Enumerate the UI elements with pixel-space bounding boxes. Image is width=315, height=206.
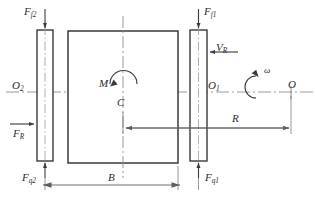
left-brake-pad (37, 26, 53, 166)
label-velocity-vr: VR (216, 42, 227, 55)
label-force-fr: FR (13, 128, 24, 141)
label-center-c: C (117, 97, 124, 108)
label-force-ff2: Ff2 (24, 6, 36, 19)
label-angular-velocity: ω (264, 66, 270, 75)
diagram-svg (0, 0, 315, 206)
label-origin-o1: O1 (208, 80, 220, 93)
label-force-ff1: Ff1 (204, 6, 216, 19)
label-moment-m: M (99, 78, 108, 89)
label-force-fq2: Fq2 (22, 172, 36, 185)
right-brake-pad (190, 26, 207, 166)
label-width-b: B (108, 172, 115, 183)
label-radius-r: R (232, 113, 239, 124)
label-force-fq1: Fq1 (205, 172, 219, 185)
label-origin-o2: O2 (12, 80, 24, 93)
label-origin-o: O (288, 79, 296, 90)
angular-velocity-arc (245, 70, 259, 98)
diagram-canvas: Ff2 Ff1 VR O2 M C O1 ω O FR R Fq2 Fq1 B (0, 0, 315, 206)
